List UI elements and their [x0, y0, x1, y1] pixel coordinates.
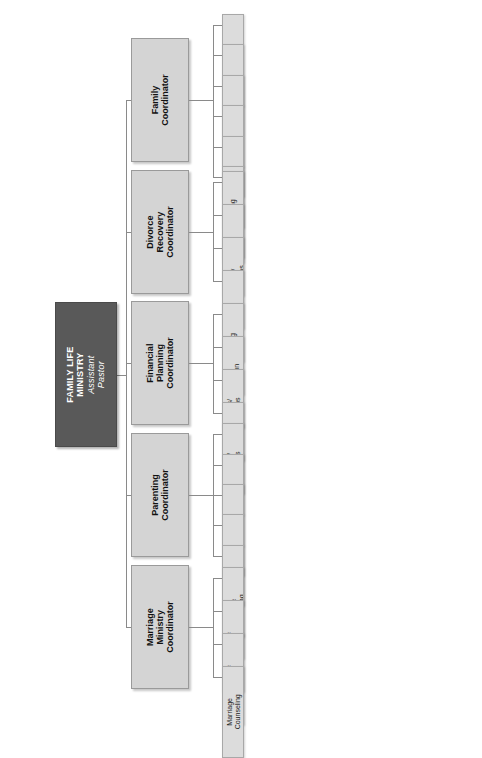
child-bus-stem-marriage-ministry	[189, 627, 213, 628]
coordinator-label-financial-planning: Financial Planning Coordinator	[145, 335, 175, 391]
child-bus-stem-financial-planning	[189, 363, 213, 364]
leaf-stem-financial-planning-2	[213, 380, 222, 381]
leaf-stem-family-2	[213, 86, 222, 87]
coordinator-label-parenting: Parenting Coordinator	[150, 467, 170, 523]
leaf-stem-parenting-2	[213, 495, 222, 496]
child-bus-financial-planning	[213, 314, 214, 413]
coordinator-node-marriage-ministry[interactable]: Marriage Ministry Coordinator	[131, 565, 189, 689]
leaf-stem-family-0	[213, 25, 222, 26]
root-title: FAMILY LIFE MINISTRY	[65, 346, 85, 402]
coordinator-label-marriage-ministry: Marriage Ministry Coordinator	[145, 599, 175, 655]
root-node: FAMILY LIFE MINISTRYAssistant Pastor	[55, 302, 117, 447]
child-bus-stem-family	[189, 100, 213, 101]
leaf-stem-family-1	[213, 55, 222, 56]
coordinator-node-divorce-recovery[interactable]: Divorce Recovery Coordinator	[131, 170, 189, 294]
coordinator-label-divorce-recovery: Divorce Recovery Coordinator	[145, 204, 175, 260]
leaf-stem-divorce-recovery-2	[213, 248, 222, 249]
child-bus-divorce-recovery	[213, 182, 214, 281]
leaf-node-marriage-ministry-3[interactable]: Marriage Counseling	[222, 666, 244, 758]
child-bus-marriage-ministry	[213, 578, 214, 677]
leaf-stem-family-5	[213, 177, 222, 178]
leaf-stem-divorce-recovery-0	[213, 182, 222, 183]
leaf-stem-divorce-recovery-1	[213, 215, 222, 216]
root-node-label: FAMILY LIFE MINISTRYAssistant Pastor	[65, 345, 106, 405]
leaf-stem-parenting-1	[213, 465, 222, 466]
child-bus-stem-parenting	[189, 495, 213, 496]
coordinator-node-parenting[interactable]: Parenting Coordinator	[131, 433, 189, 557]
leaf-stem-parenting-4	[213, 556, 222, 557]
leaf-stem-marriage-ministry-2	[213, 644, 222, 645]
leaf-stem-financial-planning-0	[213, 314, 222, 315]
leaf-stem-family-4	[213, 147, 222, 148]
coordinator-label-family: Family Coordinator	[150, 72, 170, 128]
leaf-stem-parenting-3	[213, 525, 222, 526]
leaf-stem-divorce-recovery-3	[213, 281, 222, 282]
root-subtitle: Assistant Pastor	[86, 345, 107, 405]
child-bus-family	[213, 25, 214, 177]
leaf-stem-marriage-ministry-3	[213, 677, 222, 678]
leaf-stem-marriage-ministry-0	[213, 578, 222, 579]
leaf-stem-financial-planning-1	[213, 347, 222, 348]
coordinator-node-financial-planning[interactable]: Financial Planning Coordinator	[131, 301, 189, 425]
leaf-stem-family-3	[213, 116, 222, 117]
leaf-stem-marriage-ministry-1	[213, 611, 222, 612]
leaf-stem-financial-planning-3	[213, 413, 222, 414]
leaf-label-marriage-ministry-3: Marriage Counseling	[225, 694, 241, 729]
root-stem-connector	[117, 375, 126, 376]
child-bus-stem-divorce-recovery	[189, 232, 213, 233]
leaf-stem-parenting-0	[213, 434, 222, 435]
coordinator-node-family[interactable]: Family Coordinator	[131, 38, 189, 162]
